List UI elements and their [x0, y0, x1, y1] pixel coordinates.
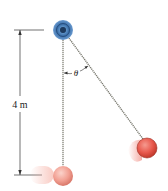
pendulum-diagram: 4 m θ — [0, 0, 168, 191]
ball-rest-sphere — [53, 166, 73, 186]
ball-swung — [128, 138, 157, 162]
arrowhead-down-icon — [18, 170, 21, 175]
ball-swung-sphere — [137, 138, 157, 158]
pivot-hub — [60, 27, 66, 33]
rope-swung — [63, 30, 143, 139]
length-dimension: 4 m — [12, 30, 44, 175]
arrowhead-up-icon — [18, 30, 21, 35]
length-label: 4 m — [12, 99, 28, 110]
motion-blur-rest — [30, 166, 54, 184]
angle-indicator: θ — [64, 66, 88, 78]
ball-rest — [30, 166, 73, 186]
angle-arrow-left-icon — [64, 72, 68, 75]
angle-label: θ — [74, 68, 79, 78]
pivot-support — [53, 20, 73, 40]
